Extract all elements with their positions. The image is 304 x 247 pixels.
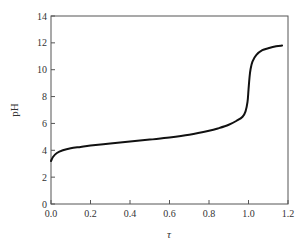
- y-tick-label: 2: [42, 172, 47, 183]
- y-tick-label: 10: [37, 64, 47, 75]
- y-tick-label: 4: [42, 145, 47, 156]
- series-group: [51, 46, 282, 161]
- x-tick-label: 1.0: [242, 208, 255, 219]
- series-line: [51, 46, 282, 161]
- y-tick-label: 6: [42, 118, 47, 129]
- x-tick-label: 0.8: [203, 208, 216, 219]
- x-tick-label: 0.0: [45, 208, 58, 219]
- plot-frame: [51, 16, 288, 204]
- chart: 0.00.20.40.60.81.01.2 02468101214 τ pH: [0, 0, 304, 247]
- plot-border: [51, 16, 288, 204]
- x-axis-ticks: 0.00.20.40.60.81.01.2: [45, 200, 295, 219]
- x-tick-label: 0.4: [124, 208, 137, 219]
- y-axis-label: pH: [8, 103, 20, 117]
- y-tick-label: 14: [37, 11, 47, 22]
- y-tick-label: 8: [42, 91, 47, 102]
- x-tick-label: 1.2: [282, 208, 295, 219]
- x-tick-label: 0.6: [163, 208, 176, 219]
- y-axis-ticks: 02468101214: [37, 11, 55, 210]
- y-tick-label: 0: [42, 199, 47, 210]
- x-axis-label: τ: [167, 228, 172, 240]
- x-tick-label: 0.2: [84, 208, 97, 219]
- y-tick-label: 12: [37, 37, 47, 48]
